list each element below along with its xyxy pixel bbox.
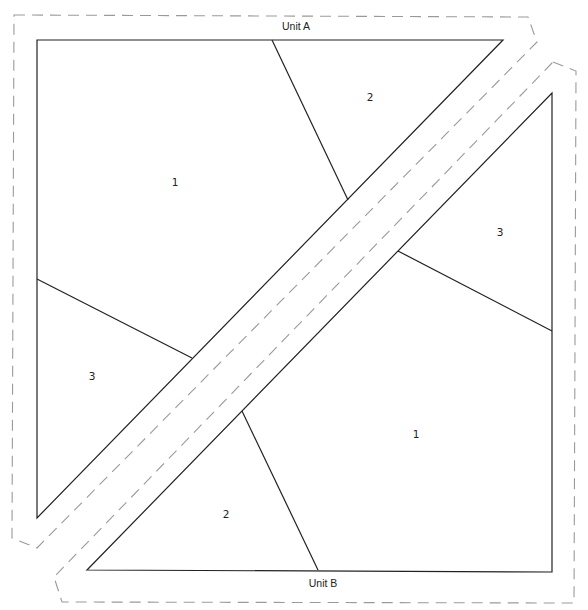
unit-b-seam-allowance — [54, 62, 576, 603]
unit-b-piece-1-number: 1 — [413, 428, 420, 440]
unit-a-piece-3-number: 3 — [89, 370, 96, 382]
unit-b: Unit B 3 1 2 — [54, 62, 576, 603]
pattern-canvas: Unit A 1 2 3 Unit B 3 1 2 — [0, 0, 588, 610]
unit-a-piece-line-2 — [37, 279, 192, 358]
unit-b-piece-line-1 — [398, 251, 552, 331]
unit-b-label: Unit B — [309, 577, 338, 589]
unit-b-piece-3-number: 3 — [497, 226, 504, 238]
unit-b-piece-2-number: 2 — [223, 508, 230, 520]
unit-a-label: Unit A — [282, 20, 310, 32]
unit-a: Unit A 1 2 3 — [12, 15, 537, 548]
unit-a-piece-2-number: 2 — [367, 91, 374, 103]
unit-b-outline — [87, 93, 552, 572]
unit-a-piece-1-number: 1 — [172, 176, 179, 188]
unit-a-seam-allowance — [12, 15, 537, 548]
unit-a-outline — [37, 40, 503, 518]
unit-b-piece-line-2 — [242, 411, 318, 570]
unit-a-piece-line-1 — [272, 40, 348, 200]
